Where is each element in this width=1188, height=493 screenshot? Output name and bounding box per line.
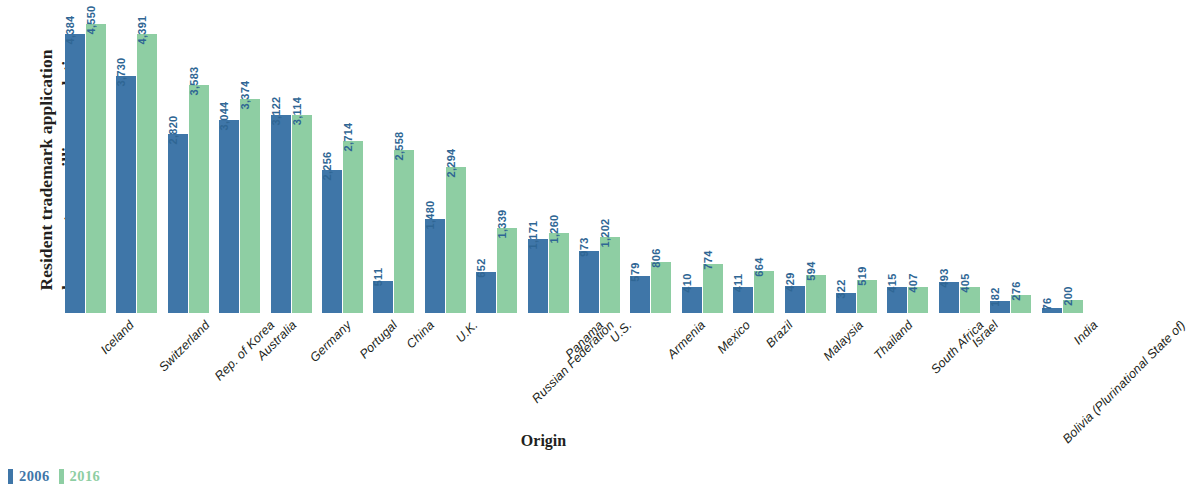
bar-value-label: 652 [476, 258, 486, 277]
x-axis-title: Origin [0, 432, 1087, 450]
bar-group: 1,1711,260 [527, 8, 571, 313]
bar-value-label: 579 [630, 263, 640, 282]
bar-2006: 973 [579, 251, 599, 313]
bar-2016: 4,391 [137, 34, 157, 313]
x-axis-label: Armenia [665, 318, 708, 361]
bar-2016: 3,114 [292, 115, 312, 313]
bar-group: 410774 [681, 8, 725, 313]
legend-item-2016[interactable]: 2016 [59, 468, 101, 485]
bar-2006: 410 [682, 287, 702, 313]
bar-2016: 774 [703, 264, 723, 313]
bar-value-label: 4,391 [137, 15, 147, 44]
bar-2016: 200 [1063, 300, 1083, 313]
bar-value-label: 2,558 [394, 132, 404, 161]
x-axis-tick-labels: IcelandSwitzerlandRep. of KoreaAustralia… [62, 314, 1082, 434]
bar-value-label: 3,114 [292, 97, 302, 125]
bar-value-label: 2,294 [446, 149, 456, 178]
bar-2006: 411 [733, 287, 753, 313]
bar-group: 1,4802,294 [424, 8, 468, 313]
legend-swatch-icon [8, 469, 13, 484]
x-axis-label: Thailand [871, 318, 915, 362]
bar-value-label: 973 [579, 238, 589, 257]
x-axis-label: India [1071, 318, 1100, 347]
bar-value-label: 3,374 [240, 80, 250, 109]
bar-value-label: 4,384 [65, 16, 75, 45]
bar-2006: 579 [630, 276, 650, 313]
bar-2016: 4,550 [86, 24, 106, 313]
bar-value-label: 76 [1042, 298, 1052, 311]
bar-2016: 1,339 [497, 228, 517, 313]
bar-value-label: 2,820 [168, 115, 178, 144]
bar-group: 4,3844,550 [64, 8, 108, 313]
bar-2006: 3,044 [219, 120, 239, 313]
bar-group: 579806 [629, 8, 673, 313]
bar-value-label: 806 [651, 248, 661, 267]
bar-value-label: 1,339 [497, 209, 507, 238]
bar-value-label: 200 [1063, 287, 1073, 306]
x-axis-label: Germany [307, 318, 354, 365]
bar-value-label: 774 [703, 250, 713, 269]
x-axis-label: Russian Federation [529, 318, 617, 406]
bar-value-label: 3,730 [116, 57, 126, 86]
bar-value-label: 594 [806, 262, 816, 281]
bar-2016: 2,558 [394, 150, 414, 313]
bar-2016: 405 [960, 287, 980, 313]
bar-2006: 2,820 [168, 134, 188, 313]
x-axis-label: Mexico [715, 318, 753, 356]
legend-label: 2016 [70, 468, 101, 485]
bar-group: 415407 [886, 8, 930, 313]
bar-group: 3,0443,374 [218, 8, 262, 313]
x-axis-label: Malaysia [820, 318, 865, 363]
bar-value-label: 3,583 [189, 67, 199, 96]
bar-value-label: 4,550 [86, 5, 96, 34]
bar-value-label: 405 [960, 274, 970, 293]
bar-group: 5112,558 [372, 8, 416, 313]
bar-value-label: 664 [754, 257, 764, 276]
chart-legend: 20062016 [8, 468, 100, 485]
bar-2016: 2,714 [343, 141, 363, 313]
bar-2006: 1,171 [528, 239, 548, 313]
bar-group: 322519 [835, 8, 879, 313]
bar-2006: 3,122 [271, 115, 291, 313]
bar-value-label: 276 [1011, 282, 1021, 301]
bar-value-label: 1,202 [600, 218, 610, 247]
bar-value-label: 407 [908, 274, 918, 293]
bar-value-label: 182 [990, 288, 1000, 307]
bar-2006: 652 [476, 272, 496, 313]
x-axis-label: Brazil [764, 318, 796, 350]
legend-swatch-icon [59, 469, 64, 484]
bar-2016: 806 [651, 262, 671, 313]
bar-2016: 519 [857, 280, 877, 313]
bar-value-label: 3,044 [219, 101, 229, 130]
bar-value-label: 511 [373, 267, 383, 286]
bar-value-label: 1,480 [425, 200, 435, 229]
bar-2016: 1,202 [600, 237, 620, 313]
bar-group: 3,1223,114 [270, 8, 314, 313]
bar-value-label: 2,714 [343, 122, 353, 151]
bar-value-label: 1,171 [528, 220, 538, 249]
bar-group: 76200 [1041, 8, 1085, 313]
bar-value-label: 411 [733, 274, 743, 293]
bar-value-label: 3,122 [271, 96, 281, 125]
bar-2006: 1,480 [425, 219, 445, 313]
bar-2006: 4,384 [65, 34, 85, 313]
bar-group: 411664 [732, 8, 776, 313]
legend-item-2006[interactable]: 2006 [8, 468, 50, 485]
x-axis-label: China [404, 318, 437, 351]
bar-group: 6521,339 [475, 8, 519, 313]
bar-2006: 182 [990, 301, 1010, 313]
bar-2016: 276 [1011, 295, 1031, 313]
bar-value-label: 410 [682, 273, 692, 292]
bar-2006: 429 [785, 286, 805, 313]
bar-group: 182276 [989, 8, 1033, 313]
bar-2006: 493 [939, 282, 959, 313]
bar-2016: 594 [806, 275, 826, 313]
x-axis-label: Switzerland [157, 318, 213, 374]
bar-2016: 3,374 [240, 99, 260, 313]
bar-value-label: 519 [857, 266, 867, 285]
bar-group: 9731,202 [578, 8, 622, 313]
x-axis-label: Iceland [98, 318, 137, 357]
x-axis-label: Portugal [357, 318, 400, 361]
x-axis-label: U.K. [453, 318, 480, 345]
